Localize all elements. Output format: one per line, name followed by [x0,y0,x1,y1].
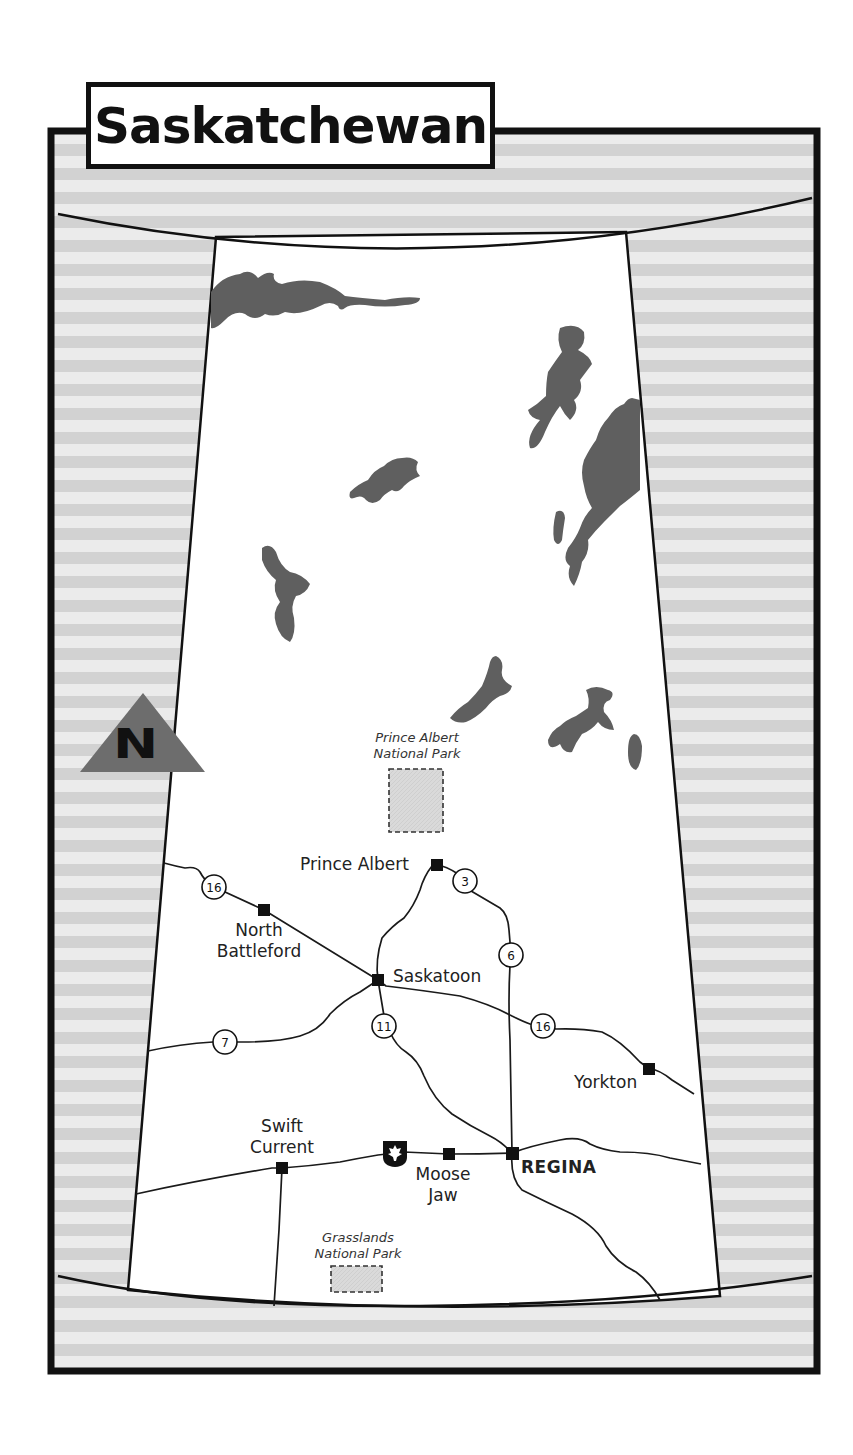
park-label-line1: Grasslands [305,1230,411,1246]
highway-shield-3[interactable]: 3 [453,869,477,893]
highway-shield-16-east[interactable]: 16 [531,1014,555,1038]
city-label-regina[interactable]: REGINA [521,1157,596,1178]
highway-shield-11[interactable]: 11 [372,1014,396,1038]
park-label-prince-albert: Prince Albert National Park [364,730,470,762]
city-label-yorkton[interactable]: Yorkton [574,1072,637,1093]
city-name: REGINA [521,1157,596,1177]
city-name: Saskatoon [393,966,481,986]
city-label-swift-current[interactable]: Swift Current [246,1116,318,1158]
city-label-saskatoon[interactable]: Saskatoon [393,966,481,987]
city-name-line1: Moose [412,1164,474,1185]
city-marker-saskatoon[interactable] [372,974,384,986]
city-name: Prince Albert [300,854,409,874]
north-arrow-letter: N [113,724,158,764]
park-label-grasslands: Grasslands National Park [305,1230,411,1262]
svg-text:16: 16 [535,1020,550,1034]
svg-text:7: 7 [221,1036,229,1050]
city-name: Yorkton [574,1072,637,1092]
map-title-box: Saskatchewan [86,82,495,169]
city-label-north-battleford[interactable]: North Battleford [208,920,310,962]
highway-shield-7[interactable]: 7 [213,1030,237,1054]
svg-text:16: 16 [206,881,221,895]
highway-shield-16-west[interactable]: 16 [202,875,226,899]
city-label-moose-jaw[interactable]: Moose Jaw [412,1164,474,1206]
svg-text:11: 11 [376,1020,391,1034]
city-marker-moose-jaw[interactable] [443,1148,455,1160]
city-marker-swift-current[interactable] [276,1162,288,1174]
park-label-line2: National Park [364,746,470,762]
city-marker-regina[interactable] [506,1147,519,1160]
prince-albert-national-park-area[interactable] [389,769,443,832]
city-name-line2: Battleford [208,941,310,962]
highway-shield-6[interactable]: 6 [499,943,523,967]
city-name-line2: Current [246,1137,318,1158]
city-marker-yorkton[interactable] [643,1063,655,1075]
trans-canada-shield-1[interactable] [383,1141,407,1167]
park-label-line1: Prince Albert [364,730,470,746]
city-label-prince-albert[interactable]: Prince Albert [300,854,409,875]
city-name-line2: Jaw [412,1185,474,1206]
city-marker-north-battleford[interactable] [258,904,270,916]
svg-text:3: 3 [461,875,469,889]
city-name-line1: Swift [246,1116,318,1137]
svg-text:6: 6 [507,949,515,963]
park-label-line2: National Park [305,1246,411,1262]
grasslands-national-park-area[interactable] [331,1266,382,1292]
map-title: Saskatchewan [94,101,487,151]
city-name-line1: North [208,920,310,941]
city-marker-prince-albert[interactable] [431,859,443,871]
